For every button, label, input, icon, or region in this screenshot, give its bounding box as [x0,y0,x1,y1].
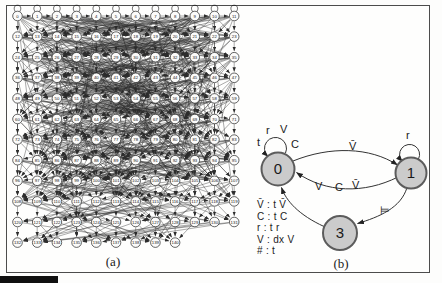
graph-node-label: 95 [232,158,237,163]
graph-edge [62,162,110,179]
graph-node-label: 107 [231,178,239,183]
graph-node-label: 19 [153,34,158,39]
graph-edge [218,205,230,217]
graph-node-label: 111 [73,199,80,204]
graph-edge [219,102,231,114]
graph-edge [199,205,211,217]
graph-edges [18,16,235,242]
graph-node-label: 88 [94,158,99,163]
graph-node-label: 71 [232,117,237,122]
graph-edge [198,82,231,134]
graph-node-label: 32 [173,55,178,60]
graph-edge [218,143,230,155]
self-loop [73,5,80,12]
graph-node-label: 99 [74,178,79,183]
self-loop [191,5,198,12]
graph-node-label: 78 [133,137,138,142]
graph-node-label: 43 [153,75,158,80]
graph-node-label: 125 [112,220,120,225]
self-loop [113,5,120,12]
self-loop [231,5,238,12]
graph-node-label: 131 [231,220,239,225]
graph-node-label: 10 [212,14,217,19]
graph-node-label: 139 [152,240,160,245]
caption-panel-b: (b) [318,256,364,272]
graph-node-label: 87 [74,158,79,163]
graph-node-label: 49 [35,96,40,101]
graph-node-label: 16 [94,34,99,39]
graph-edge [21,102,33,114]
graph-edge [218,164,230,176]
loop0-label-t: t [257,136,260,148]
graph-node-label: 23 [232,34,237,39]
graph-node-label: 37 [35,75,40,80]
graph-node-label: 115 [152,199,159,204]
graph-node-label: 79 [153,137,158,142]
graph-node-label: 96 [15,178,20,183]
graph-edge [199,123,211,135]
graph-node-label: 65 [114,117,119,122]
graph-node-label: 39 [74,75,79,80]
graph-node-label: 134 [53,240,61,245]
graph-node-label: 101 [112,178,120,183]
graph-node-label: 48 [15,96,20,101]
graph-node-label: 15 [74,34,79,39]
self-loop [54,5,61,12]
edge-1-0-label-vbar: V̄ [352,179,360,191]
graph-node-label: 14 [55,34,60,39]
graph-node-label: 137 [112,240,120,245]
graph-node-label: 24 [15,55,20,60]
self-loop [211,5,218,12]
graph-node-label: 61 [35,117,40,122]
graph-node-label: 82 [212,137,217,142]
graph-edge [218,20,230,32]
edge-1-3-label: ⊨ [380,204,390,216]
self-loop [172,5,179,12]
graph-node-label: 40 [94,75,99,80]
graph-node-label: 112 [93,199,100,204]
graph-node-label: 113 [113,199,120,204]
self-loop [34,5,41,12]
graph-edge [120,184,170,219]
graph-node-label: 116 [172,199,179,204]
graph-edge [180,18,228,35]
self-loop [14,5,21,12]
graph-node-label: 42 [133,75,138,80]
caption-panel-a: (a) [90,254,136,270]
graph-node-label: 106 [211,178,219,183]
graph-node-label: 11 [232,14,237,19]
rule-line: r : t r [257,222,294,234]
state-3-label: 3 [336,224,344,241]
graph-node-label: 76 [94,137,99,142]
graph-node-label: 109 [34,199,42,204]
graph-node-label: 105 [191,178,199,183]
graph-node-label: 64 [94,117,99,122]
graph-node-label: 97 [35,178,40,183]
loop0-label-c: C [291,138,299,150]
graph-node-label: 132 [14,240,22,245]
graph-node-label: 128 [172,220,180,225]
graph-node-label: 118 [211,199,218,204]
graph-node-label: 133 [34,240,42,245]
graph-node-label: 56 [173,96,178,101]
figure-panel: 0123456789101112131415161718192021222324… [0,0,442,283]
graph-edge [41,226,53,238]
graph-node-label: 122 [53,220,61,225]
graph-node-label: 98 [55,178,60,183]
graph-node-label: 84 [15,158,20,163]
graph-node-label: 34 [212,55,217,60]
graph-node-label: 62 [55,117,60,122]
graph-edge [179,82,212,134]
graph-node-label: 72 [15,137,20,142]
graph-node-label: 50 [55,96,60,101]
graph-node-label: 117 [191,199,198,204]
graph-node-label: 60 [15,117,20,122]
graph-node-label: 120 [14,220,22,225]
graph-node-label: 85 [35,158,40,163]
edge-1-to-0 [297,173,399,189]
graph-node-label: 114 [132,199,139,204]
graph-edge [21,20,33,32]
graph-node-label: 69 [192,117,197,122]
graph-node-label: 28 [94,55,99,60]
graph-node-label: 92 [173,158,178,163]
